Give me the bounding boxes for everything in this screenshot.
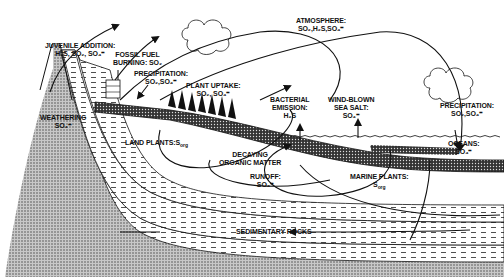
cloud-right <box>424 68 473 103</box>
label-plant-uptake: PLANT UPTAKE: SO₂, SO₄⁼ <box>186 82 241 98</box>
label-subscript: org <box>378 184 386 190</box>
label-line: SO₄⁼ <box>448 148 480 156</box>
label-line: ATMOSPHERE: <box>296 17 346 25</box>
label-line: PLANT UPTAKE: <box>186 82 241 90</box>
label-line: FOSSIL FUEL <box>113 51 162 59</box>
label-line: SO₂, SO₄⁼ <box>186 90 241 98</box>
label-line: SO₂,SO₄⁼ <box>134 78 188 86</box>
label-line: PRECIPITATION: <box>440 102 494 110</box>
label-land-plants: LAND PLANTS:Sorg <box>125 139 188 149</box>
label-line: H₂S <box>270 112 310 120</box>
label-juvenile-addition: JUVENILE ADDITION: H₂S, SO₂, SO₄⁼ <box>45 42 115 58</box>
label-line: SO₄⁼ <box>328 112 374 120</box>
label-atmosphere: ATMOSPHERE: SO₂,H₂S,SO₄⁼ <box>296 17 346 33</box>
label-line: LAND PLANTS:S <box>125 139 180 146</box>
label-line: EMISSION: <box>270 104 310 112</box>
label-line: SO₂,SO₄⁼ <box>440 110 494 118</box>
label-marine-plants: MARINE PLANTS: Sorg <box>350 173 409 191</box>
label-line: WIND-BLOWN <box>328 96 374 104</box>
label-line: RUNOFF: <box>250 173 281 181</box>
label-oceans: OCEANS: SO₄⁼ <box>448 140 480 156</box>
label-runoff: RUNOFF: SO₄⁼ <box>250 173 281 189</box>
label-line: SO₄⁼ <box>250 181 281 189</box>
label-line: DECAYING <box>219 151 281 159</box>
label-subscript: org <box>180 142 188 148</box>
label-precipitation-left: PRECIPITATION: SO₂,SO₄⁼ <box>134 70 188 86</box>
label-precipitation-right: PRECIPITATION: SO₂,SO₄⁼ <box>440 102 494 118</box>
label-decaying-organic-matter: DECAYING ORGANIC MATTER <box>219 151 281 167</box>
label-line: OCEANS: <box>448 140 480 148</box>
label-line: SEA SALT: <box>328 104 374 112</box>
label-weathering: WEATHERING SO₄⁼ <box>40 114 86 130</box>
label-line: WEATHERING <box>40 114 86 122</box>
label-line: SO₂,H₂S,SO₄⁼ <box>296 25 346 33</box>
label-fossil-fuel: FOSSIL FUEL BURNING: SO₂ <box>113 51 162 67</box>
cloud-left <box>182 20 231 55</box>
label-line: ORGANIC MATTER <box>219 159 281 167</box>
label-line: BURNING: SO₂ <box>113 59 162 67</box>
label-line: H₂S, SO₂, SO₄⁼ <box>45 50 115 58</box>
label-sedimentary-rocks: SEDIMENTARY ROCKS <box>236 228 312 236</box>
label-line: PRECIPITATION: <box>134 70 188 78</box>
label-wind-blown-sea-salt: WIND-BLOWN SEA SALT: SO₄⁼ <box>328 96 374 120</box>
label-line: SEDIMENTARY ROCKS <box>236 228 312 236</box>
label-bacterial-emission: BACTERIAL EMISSION: H₂S <box>270 96 310 120</box>
label-line: JUVENILE ADDITION: <box>45 42 115 50</box>
label-line: BACTERIAL <box>270 96 310 104</box>
label-line: MARINE PLANTS: <box>350 173 409 181</box>
label-line: SO₄⁼ <box>40 122 86 130</box>
